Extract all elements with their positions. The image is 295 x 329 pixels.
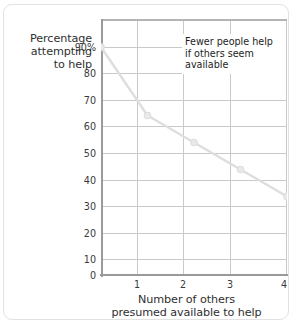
gridline-y-30 (101, 206, 287, 207)
x-tick-label-4: 4 (273, 279, 289, 290)
y-tick-label-50: 50 (60, 148, 96, 159)
gridline-y-10 (101, 259, 287, 260)
y-tick-label-30: 30 (60, 201, 96, 212)
gridline-y-40 (101, 180, 287, 181)
x-axis-title: Number of others presumed available to h… (84, 293, 289, 320)
y-tick-label-80: 80 (60, 68, 96, 79)
x-axis-title-line-2: presumed available to help (84, 306, 289, 319)
y-tick-label-60: 60 (60, 121, 96, 132)
annotation-line-2: if others seem (185, 48, 284, 60)
annotation-line-3: available (185, 59, 284, 71)
gridline-x-4 (286, 21, 287, 275)
y-tick-label-70: 70 (60, 95, 96, 106)
y-tick-label-0: 0 (60, 270, 96, 281)
x-tick-label-3: 3 (219, 279, 241, 290)
gridline-x-1 (137, 21, 138, 275)
y-axis-line (101, 19, 103, 277)
plot-top-border (101, 19, 287, 21)
x-tick-label-1: 1 (126, 279, 148, 290)
gridline-y-50 (101, 153, 287, 154)
y-tick-label-40: 40 (60, 175, 96, 186)
figure-card: Percentage attempting to help 90% 80 70 … (3, 4, 289, 320)
y-tick-label-20: 20 (60, 228, 96, 239)
y-tick-label-90: 90% (60, 42, 96, 53)
gridline-y-20 (101, 233, 287, 234)
gridline-y-70 (101, 100, 287, 101)
x-axis-title-line-1: Number of others (84, 293, 289, 306)
x-axis-line (100, 274, 288, 276)
y-tick-label-10: 10 (60, 254, 96, 265)
chart-annotation: Fewer people help if others seem availab… (182, 34, 286, 74)
annotation-line-1: Fewer people help (185, 36, 284, 48)
gridline-y-60 (101, 126, 287, 127)
x-tick-label-2: 2 (172, 279, 194, 290)
